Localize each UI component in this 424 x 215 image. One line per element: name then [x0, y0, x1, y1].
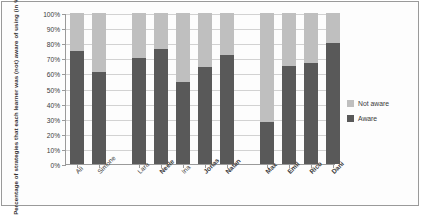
y-axis-title: Percentage of strategies that each learn… [1, 2, 31, 207]
bar-series-container [66, 14, 335, 164]
y-axis-tick-label: 10% [47, 146, 60, 153]
bar-segment-not-aware[interactable] [282, 13, 296, 66]
bar-segment-aware[interactable] [154, 49, 168, 164]
bar-segment-aware[interactable] [132, 58, 146, 164]
bar-rico[interactable] [304, 13, 318, 164]
bar-segment-aware[interactable] [92, 72, 106, 164]
y-axis-tick-label: 0% [50, 162, 60, 169]
y-axis-tick-label: 80% [47, 41, 60, 48]
legend-item-not-aware[interactable]: Not aware [347, 100, 389, 107]
bar-simone[interactable] [92, 13, 106, 164]
bar-segment-not-aware[interactable] [154, 13, 168, 49]
bar-segment-not-aware[interactable] [198, 13, 212, 67]
legend-swatch-icon [347, 100, 354, 107]
chart-frame: Percentage of strategies that each learn… [1, 1, 419, 206]
bar-ina[interactable] [176, 13, 190, 164]
bar-segment-not-aware[interactable] [92, 13, 106, 72]
y-axis-tick-label: 70% [47, 56, 60, 63]
bar-max[interactable] [260, 13, 274, 164]
bar-segment-not-aware[interactable] [304, 13, 318, 63]
bar-segment-not-aware[interactable] [326, 13, 340, 43]
legend: Not awareAware [347, 100, 389, 130]
bar-segment-aware[interactable] [70, 51, 84, 164]
plot-area: 0%10%20%30%40%50%60%70%80%90%100% AliSim… [65, 14, 335, 165]
bar-segment-aware[interactable] [220, 55, 234, 164]
y-axis-tick-label: 50% [47, 86, 60, 93]
x-axis-label-ina: Ina [180, 164, 191, 175]
bar-segment-not-aware[interactable] [260, 13, 274, 122]
bar-dani[interactable] [326, 13, 340, 164]
bar-segment-aware[interactable] [326, 43, 340, 164]
y-axis-tick-label: 60% [47, 71, 60, 78]
x-axis-label-ali: Ali [74, 165, 84, 175]
y-axis-tick-label: 100% [43, 11, 60, 18]
bar-lara[interactable] [132, 13, 146, 164]
bar-segment-aware[interactable] [260, 122, 274, 164]
legend-label: Aware [358, 115, 377, 122]
bar-segment-aware[interactable] [198, 67, 212, 164]
bar-segment-aware[interactable] [282, 66, 296, 164]
y-axis-tick [62, 165, 66, 166]
legend-swatch-icon [347, 115, 354, 122]
bar-segment-not-aware[interactable] [220, 13, 234, 55]
y-axis-tick-label: 90% [47, 26, 60, 33]
legend-label: Not aware [358, 100, 389, 107]
y-axis-tick-label: 20% [47, 131, 60, 138]
bar-segment-aware[interactable] [304, 63, 318, 164]
bar-jonas[interactable] [198, 13, 212, 164]
bar-ali[interactable] [70, 13, 84, 164]
bar-neele[interactable] [154, 13, 168, 164]
bar-segment-aware[interactable] [176, 82, 190, 164]
y-axis-title-text: Percentage of strategies that each learn… [12, 0, 20, 213]
bar-segment-not-aware[interactable] [70, 13, 84, 51]
y-axis-tick-label: 40% [47, 101, 60, 108]
bar-emil[interactable] [282, 13, 296, 164]
y-axis-tick-label: 30% [47, 116, 60, 123]
bar-natan[interactable] [220, 13, 234, 164]
legend-item-aware[interactable]: Aware [347, 115, 389, 122]
bar-segment-not-aware[interactable] [176, 13, 190, 82]
bar-segment-not-aware[interactable] [132, 13, 146, 58]
